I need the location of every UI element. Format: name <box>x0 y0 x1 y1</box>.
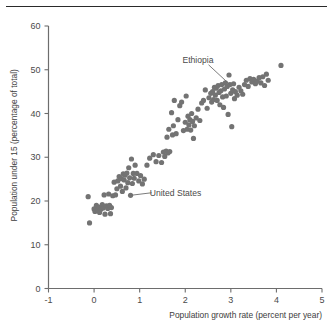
scatter-point <box>262 83 267 88</box>
scatter-point <box>144 163 149 168</box>
scatter-point <box>142 177 147 182</box>
scatter-point <box>221 105 226 110</box>
annotations: EthiopiaUnited States <box>131 55 230 198</box>
x-tick-label: -1 <box>44 295 52 305</box>
x-tick-label: 2 <box>183 295 188 305</box>
scatter-point <box>153 159 158 164</box>
scatter-point <box>229 124 234 129</box>
scatter-point <box>133 163 138 168</box>
scatter-point <box>226 112 231 117</box>
y-tick-label: 40 <box>30 109 40 119</box>
scatter-point <box>201 98 206 103</box>
x-axis-title: Population growth rate (percent per year… <box>169 310 322 320</box>
scatter-point <box>109 205 114 210</box>
scatter-point <box>191 136 196 141</box>
y-axis-tick-labels: 0102030405060 <box>30 21 40 294</box>
y-tick-label: 10 <box>30 240 40 250</box>
scatter-point <box>102 212 107 217</box>
scatter-point <box>108 211 113 216</box>
scatter-point <box>246 84 251 89</box>
scatter-point <box>266 78 271 83</box>
scatter-point <box>140 181 145 186</box>
scatter-point <box>205 106 210 111</box>
annotation-label-ethiopia: Ethiopia <box>182 55 213 65</box>
scatter-point <box>169 110 174 115</box>
scatter-point <box>235 93 240 98</box>
scatter-point <box>124 170 129 175</box>
y-tick-label: 60 <box>30 21 40 31</box>
x-tick-label: 5 <box>319 295 324 305</box>
scatter-point <box>264 72 269 77</box>
scatter-point <box>224 93 229 98</box>
y-axis-title: Population under 15 (percentage of total… <box>9 69 19 221</box>
scatter-point <box>123 185 128 190</box>
scatter-point <box>240 92 245 97</box>
scatter-point <box>151 152 156 157</box>
y-tick-label: 50 <box>30 65 40 75</box>
scatter-point <box>87 220 92 225</box>
scatter-point <box>215 98 220 103</box>
scatter-point <box>278 63 283 68</box>
scatter-point <box>127 175 132 180</box>
scatter-point <box>130 181 135 186</box>
scatter-point <box>86 194 91 199</box>
scatter-point <box>184 93 189 98</box>
y-tick-label: 30 <box>30 152 40 162</box>
x-axis-tick-labels: -1012345 <box>44 295 324 305</box>
y-tick-label: 20 <box>30 196 40 206</box>
scatter-point <box>125 180 130 185</box>
scatter-point <box>113 192 118 197</box>
scatter-point <box>195 107 200 112</box>
scatter-point <box>197 118 202 123</box>
scatter-point <box>126 165 131 170</box>
scatter-point <box>172 98 177 103</box>
scatter-point <box>164 135 169 140</box>
x-tick-label: 1 <box>137 295 142 305</box>
scatter-point <box>167 149 172 154</box>
scatter-point <box>189 111 194 116</box>
scatter-point <box>231 81 236 86</box>
scatter-point <box>156 153 161 158</box>
x-tick-label: 3 <box>228 295 233 305</box>
data-points <box>86 63 284 226</box>
scatter-point <box>174 131 179 136</box>
scatter-plot: 0102030405060 -1012345 EthiopiaUnited St… <box>0 0 333 327</box>
scatter-point <box>192 123 197 128</box>
scatter-point <box>226 72 231 77</box>
scatter-point <box>102 192 107 197</box>
y-tick-label: 0 <box>35 284 40 294</box>
scatter-point <box>171 123 176 128</box>
scatter-point <box>132 176 137 181</box>
scatter-point <box>175 117 180 122</box>
scatter-point <box>203 87 208 92</box>
x-tick-label: 0 <box>92 295 97 305</box>
scatter-point <box>129 156 134 161</box>
annotation-label-united-states: United States <box>150 188 202 198</box>
scatter-point <box>118 184 123 189</box>
scatter-point <box>188 128 193 133</box>
scatter-point <box>166 127 171 132</box>
x-tick-label: 4 <box>274 295 279 305</box>
annotation-leader-line <box>131 193 152 196</box>
scatter-point <box>159 160 164 165</box>
figure-container: 0102030405060 -1012345 EthiopiaUnited St… <box>0 0 333 327</box>
scatter-point <box>179 100 184 105</box>
